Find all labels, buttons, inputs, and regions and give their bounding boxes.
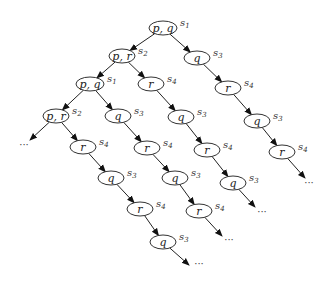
- tree-node: p, qs1: [149, 17, 190, 35]
- node-propositions-label: r: [148, 78, 154, 91]
- state-name-label: s3: [213, 47, 223, 60]
- tree-node: p, rs2: [109, 45, 148, 63]
- nodes-layer: p, qs1p, rs2qs3p, qs1rs4rs4p, rs2qs3qs3q…: [43, 17, 308, 249]
- state-name-label: s3: [134, 105, 144, 118]
- transition-arrow: [212, 156, 228, 176]
- continuation-dots-layer: ···············: [19, 139, 314, 269]
- tree-node: rs4: [186, 200, 225, 218]
- node-propositions-label: p, r: [46, 110, 66, 123]
- tree-node: rs4: [194, 139, 233, 157]
- state-name-label: s3: [249, 172, 259, 185]
- state-name-label: s3: [273, 110, 283, 123]
- state-name-label: s3: [179, 231, 189, 244]
- node-propositions-label: q: [177, 111, 184, 124]
- state-name-label: s1: [107, 73, 117, 86]
- transition-arrow: [239, 189, 255, 207]
- transition-arrow: [128, 62, 144, 78]
- transition-arrow: [124, 122, 142, 141]
- state-name-label: s2: [138, 45, 148, 58]
- transition-arrow: [288, 158, 305, 178]
- transition-arrow: [145, 216, 159, 236]
- computation-tree-diagram: p, qs1p, rs2qs3p, qs1rs4rs4p, rs2qs3qs3q…: [0, 0, 326, 287]
- transition-arrow: [262, 127, 277, 145]
- state-name-label: s4: [223, 139, 233, 152]
- state-name-label: s2: [72, 105, 82, 118]
- node-propositions-label: r: [137, 203, 143, 216]
- state-name-label: s3: [197, 106, 207, 119]
- transition-arrow: [153, 154, 169, 171]
- transition-arrow: [186, 123, 202, 143]
- state-name-label: s1: [180, 17, 190, 30]
- node-propositions-label: q: [159, 236, 166, 249]
- tree-node: rs4: [138, 73, 177, 91]
- node-propositions-label: p, r: [112, 50, 132, 63]
- state-name-label: s4: [156, 198, 166, 211]
- node-propositions-label: p, q: [152, 22, 173, 35]
- state-name-label: s3: [191, 167, 201, 180]
- continuation-ellipsis: ···: [19, 139, 29, 150]
- continuation-ellipsis: ···: [224, 234, 234, 245]
- tree-graphic: p, qs1p, rs2qs3p, qs1rs4rs4p, rs2qs3qs3q…: [0, 0, 326, 287]
- tree-node: qs3: [184, 47, 223, 65]
- state-name-label: s4: [163, 137, 173, 150]
- node-propositions-label: q: [107, 172, 114, 185]
- transition-arrow: [170, 34, 190, 52]
- tree-node: rs4: [215, 77, 254, 95]
- transition-arrow: [180, 185, 195, 205]
- state-name-label: s4: [215, 200, 225, 213]
- node-propositions-label: r: [279, 146, 285, 159]
- transition-arrow: [157, 90, 176, 110]
- continuation-ellipsis: ···: [257, 206, 267, 217]
- node-propositions-label: q: [193, 52, 200, 65]
- transition-arrow: [234, 94, 252, 114]
- node-propositions-label: r: [204, 144, 210, 157]
- tree-node: p, qs1: [76, 73, 117, 91]
- continuation-ellipsis: ···: [194, 258, 204, 269]
- continuation-ellipsis: ···: [304, 177, 314, 188]
- node-propositions-label: q: [229, 177, 236, 190]
- node-propositions-label: r: [196, 205, 202, 218]
- state-name-label: s4: [99, 136, 109, 149]
- state-name-label: s4: [298, 141, 308, 154]
- tree-node: qs3: [150, 231, 189, 249]
- node-propositions-label: r: [225, 82, 231, 95]
- transition-arrow: [205, 217, 222, 236]
- transition-arrow: [89, 153, 106, 171]
- node-propositions-label: q: [253, 115, 260, 128]
- node-propositions-label: p, q: [79, 78, 100, 91]
- transition-arrow: [203, 64, 221, 82]
- node-propositions-label: q: [114, 110, 121, 123]
- transition-arrow: [170, 248, 189, 265]
- transition-arrow: [62, 122, 78, 140]
- state-name-label: s4: [244, 77, 254, 90]
- tree-node: p, rs2: [43, 105, 82, 123]
- node-propositions-label: r: [144, 142, 150, 155]
- transition-arrow: [117, 184, 134, 202]
- state-name-label: s4: [167, 73, 177, 86]
- state-name-label: s3: [127, 167, 137, 180]
- node-propositions-label: r: [80, 141, 86, 154]
- transition-arrow: [96, 90, 113, 109]
- transition-arrow: [30, 122, 49, 140]
- node-propositions-label: q: [171, 172, 178, 185]
